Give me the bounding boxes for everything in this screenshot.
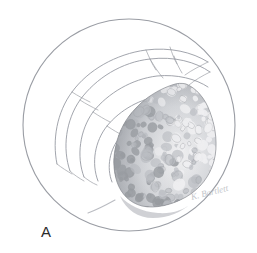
figure-root: A K. Bartlett (0, 0, 257, 253)
illustration-canvas (0, 0, 257, 253)
panel-label-a: A (41, 224, 51, 239)
